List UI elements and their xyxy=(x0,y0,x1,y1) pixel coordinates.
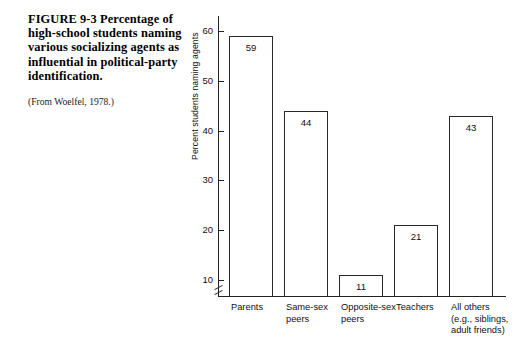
y-tick-mark xyxy=(218,180,224,181)
bar-value-label: 44 xyxy=(285,117,327,128)
y-tick-label: 10 xyxy=(202,274,213,285)
bar: 59 xyxy=(229,36,273,296)
bar-chart: Percent students naming agents 102030405… xyxy=(196,10,512,340)
y-tick-label: 30 xyxy=(202,174,213,185)
y-tick-mark xyxy=(218,230,224,231)
bar: 11 xyxy=(339,275,383,296)
y-tick-40: 40 xyxy=(218,131,224,132)
y-tick-mark xyxy=(218,31,224,32)
figure-source-text: (From Woelfel, 1978.) xyxy=(28,96,188,108)
y-axis-break-icon xyxy=(214,284,223,296)
figure-caption-text: FIGURE 9-3 Percentage of high-school stu… xyxy=(28,12,188,83)
y-tick-mark xyxy=(218,81,224,82)
y-axis-title: Percent students naming agents xyxy=(190,32,200,160)
y-tick-60: 60 xyxy=(218,31,224,32)
bar-value-label: 59 xyxy=(230,42,272,53)
bar-value-label: 43 xyxy=(450,122,492,133)
y-tick-30: 30 xyxy=(218,180,224,181)
category-label: Opposite-sex peers xyxy=(341,302,396,325)
figure-caption-block: FIGURE 9-3 Percentage of high-school stu… xyxy=(28,12,188,108)
x-axis-line xyxy=(218,296,506,297)
y-tick-mark xyxy=(218,131,224,132)
category-label: Teachers xyxy=(396,302,434,314)
y-tick-label: 40 xyxy=(202,125,213,136)
y-tick-20: 20 xyxy=(218,230,224,231)
bar-value-label: 11 xyxy=(340,281,382,292)
y-tick-10: 10 xyxy=(218,280,224,281)
category-label: Parents xyxy=(231,302,263,314)
y-tick-mark xyxy=(218,280,224,281)
y-axis-line xyxy=(218,16,219,297)
y-tick-label: 20 xyxy=(202,224,213,235)
y-tick-50: 50 xyxy=(218,81,224,82)
y-tick-label: 60 xyxy=(202,25,213,36)
bar: 43 xyxy=(449,116,493,296)
category-label: All others (e.g., siblings, adult friend… xyxy=(451,302,508,337)
category-label: Same-sex peers xyxy=(286,302,328,325)
y-tick-label: 50 xyxy=(202,75,213,86)
bar: 44 xyxy=(284,111,328,296)
bar: 21 xyxy=(394,225,438,296)
bar-value-label: 21 xyxy=(395,231,437,242)
